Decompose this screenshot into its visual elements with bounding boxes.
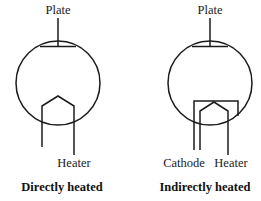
- label-heater-right: Heater: [214, 156, 248, 170]
- caption-directly-heated: Directly heated: [21, 180, 102, 194]
- diagram-canvas: Plate Heater Directly heated Plate: [0, 0, 261, 201]
- caption-indirectly-heated: Indirectly heated: [159, 180, 250, 194]
- figure-vacuum-tube-symbols: Plate Heater Directly heated Plate: [0, 0, 261, 201]
- tube-envelope-left: [16, 41, 100, 125]
- heater-filament-right: [200, 102, 228, 122]
- label-plate-left: Plate: [46, 3, 71, 17]
- heater-filament-left: [42, 96, 74, 118]
- indirectly-heated-tube: Plate Cathode Heater Indirectly heated: [159, 3, 252, 194]
- label-plate-right: Plate: [198, 3, 223, 17]
- label-cathode-right: Cathode: [163, 156, 205, 170]
- tube-envelope-right: [168, 41, 252, 125]
- label-heater-left: Heater: [57, 156, 91, 170]
- directly-heated-tube: Plate Heater Directly heated: [16, 3, 103, 194]
